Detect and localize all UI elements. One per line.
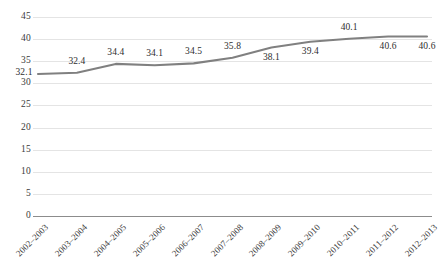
plot-area: 32.132.434.434.134.535.838.139.440.140.6… <box>33 10 432 222</box>
y-tick-label-30: 30 <box>5 77 31 87</box>
data-label-2004–2005: 34.4 <box>107 47 124 57</box>
y-tick-label-45: 45 <box>5 11 31 21</box>
x-tick-label-2011–2012: 2011–2012 <box>364 222 400 258</box>
data-label-2006–2007: 34.5 <box>185 46 202 56</box>
y-tick-label-20: 20 <box>5 122 31 132</box>
data-label-2009–2010: 39.4 <box>302 46 319 56</box>
x-axis: 2002–20032003–20042004–20052005–20062006… <box>33 222 432 279</box>
data-label-2007–2008: 35.8 <box>224 41 241 51</box>
y-tick-label-5: 5 <box>5 188 31 198</box>
x-tick-label-2004–2005: 2004–2005 <box>92 222 128 258</box>
line-chart: 454035302520151050 32.132.434.434.134.53… <box>0 0 444 279</box>
data-label-2012–2013: 40.6 <box>418 41 435 51</box>
y-tick-label-10: 10 <box>5 166 31 176</box>
y-tick-label-25: 25 <box>5 99 31 109</box>
data-label-2005–2006: 34.1 <box>146 48 163 58</box>
data-label-2008–2009: 38.1 <box>263 52 280 62</box>
y-tick-label-35: 35 <box>5 55 31 65</box>
y-axis: 454035302520151050 <box>0 10 31 222</box>
x-tick-label-2009–2010: 2009–2010 <box>286 222 322 258</box>
y-tick-label-40: 40 <box>5 33 31 43</box>
x-tick-label-2010–2011: 2010–2011 <box>325 222 361 258</box>
data-label-2002–2003: 32.1 <box>15 67 32 77</box>
y-tick-label-0: 0 <box>5 210 31 220</box>
x-tick-label-2006–2007: 2006–2007 <box>169 222 205 258</box>
x-tick-label-2008–2009: 2008–2009 <box>247 222 283 258</box>
x-tick-label-2007–2008: 2007–2008 <box>208 222 244 258</box>
x-tick-label-2012–2013: 2012–2013 <box>403 222 439 258</box>
x-tick-label-2003–2004: 2003–2004 <box>53 222 89 258</box>
x-tick-label-2002–2003: 2002–2003 <box>14 222 50 258</box>
y-tick-label-15: 15 <box>5 144 31 154</box>
data-label-2011–2012: 40.6 <box>380 41 397 51</box>
x-tick-label-2005–2006: 2005–2006 <box>130 222 166 258</box>
data-label-2003–2004: 32.4 <box>68 56 85 66</box>
data-label-2010–2011: 40.1 <box>341 22 358 32</box>
